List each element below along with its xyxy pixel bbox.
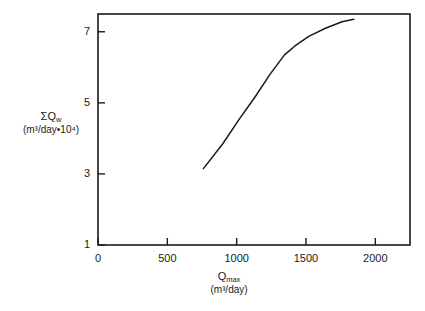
y-tick-label: 5 [52, 97, 90, 108]
y-tick-marks [98, 32, 105, 245]
x-axis-title-symbol: Q [218, 270, 227, 282]
x-tick-label: 1000 [212, 253, 262, 264]
x-tick-label: 2000 [350, 253, 400, 264]
x-tick-label: 0 [73, 253, 123, 264]
y-axis-title-subscript: w [56, 115, 61, 124]
y-axis-title: ΣQw (m³/day•10⁴) [8, 110, 94, 136]
x-axis-title: Qmax (m³/day) [186, 270, 272, 296]
plot-svg [0, 0, 425, 311]
y-tick-label: 3 [52, 168, 90, 179]
chart-screenshot: 1357 0500100015002000 ΣQw (m³/day•10⁴) Q… [0, 0, 425, 311]
x-tick-marks [98, 238, 375, 245]
data-series-line [203, 19, 353, 168]
y-tick-label: 1 [52, 239, 90, 250]
x-axis-title-subscript: max [226, 275, 240, 284]
x-tick-label: 500 [142, 253, 192, 264]
x-tick-label: 1500 [281, 253, 331, 264]
y-axis-title-units: (m³/day•10⁴) [8, 124, 94, 137]
y-axis-title-symbol: ΣQ [41, 110, 56, 122]
axes-frame [98, 14, 410, 245]
y-tick-label: 7 [52, 26, 90, 37]
figure-canvas: 1357 0500100015002000 ΣQw (m³/day•10⁴) Q… [0, 0, 425, 311]
x-axis-title-units: (m³/day) [186, 284, 272, 297]
